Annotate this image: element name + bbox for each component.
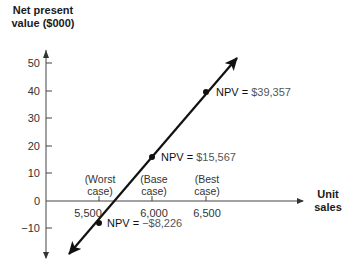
x-tick-6500: 6,500: [187, 207, 227, 219]
worst-case-label-line1: (Worst: [78, 173, 122, 185]
worst-case-label-line2: case): [78, 185, 122, 197]
npv-prefix: NPV =: [161, 151, 196, 163]
y-tick-40: 40: [14, 85, 40, 97]
best-case-point: [203, 89, 209, 95]
npv-sensitivity-chart: Net present value ($000) Unit sales 50 4…: [0, 0, 357, 269]
y-tick-50: 50: [14, 57, 40, 69]
worst-npv-value: −$8,226: [142, 217, 182, 229]
y-tick-marks: [46, 63, 52, 228]
npv-line: [152, 58, 237, 157]
y-axis-title: Net present value ($000): [8, 4, 78, 30]
npv-prefix: NPV =: [107, 217, 142, 229]
y-axis-title-line2: value ($000): [8, 17, 78, 30]
best-case-label: (Best case): [185, 173, 229, 197]
y-tick-0: 0: [14, 195, 40, 207]
y-tick-minus10: −10: [14, 222, 40, 234]
x-tick-5500: 5,500: [68, 207, 108, 219]
y-axis-title-line1: Net present: [8, 4, 78, 17]
best-npv-value: $39,357: [251, 86, 291, 98]
npv-line-lower: [69, 157, 152, 254]
base-case-point: [149, 154, 155, 160]
best-case-label-line1: (Best: [185, 173, 229, 185]
base-npv-value: $15,567: [196, 151, 236, 163]
base-case-label: (Base case): [132, 173, 176, 197]
y-tick-10: 10: [14, 167, 40, 179]
x-axis-title: Unit sales: [308, 188, 348, 214]
best-case-label-line2: case): [185, 185, 229, 197]
base-npv-annotation: NPV = $15,567: [161, 151, 236, 163]
x-axis-title-line1: Unit: [308, 188, 348, 201]
x-axis-title-line2: sales: [308, 201, 348, 214]
worst-case-point: [96, 220, 102, 226]
worst-case-label: (Worst case): [78, 173, 122, 197]
worst-npv-annotation: NPV = −$8,226: [107, 217, 182, 229]
base-case-label-line2: case): [132, 185, 176, 197]
y-tick-30: 30: [14, 112, 40, 124]
npv-prefix: NPV =: [216, 86, 251, 98]
y-axis-arrow-icon: [43, 50, 49, 58]
best-npv-annotation: NPV = $39,357: [216, 86, 291, 98]
base-case-label-line1: (Base: [132, 173, 176, 185]
y-tick-20: 20: [14, 140, 40, 152]
